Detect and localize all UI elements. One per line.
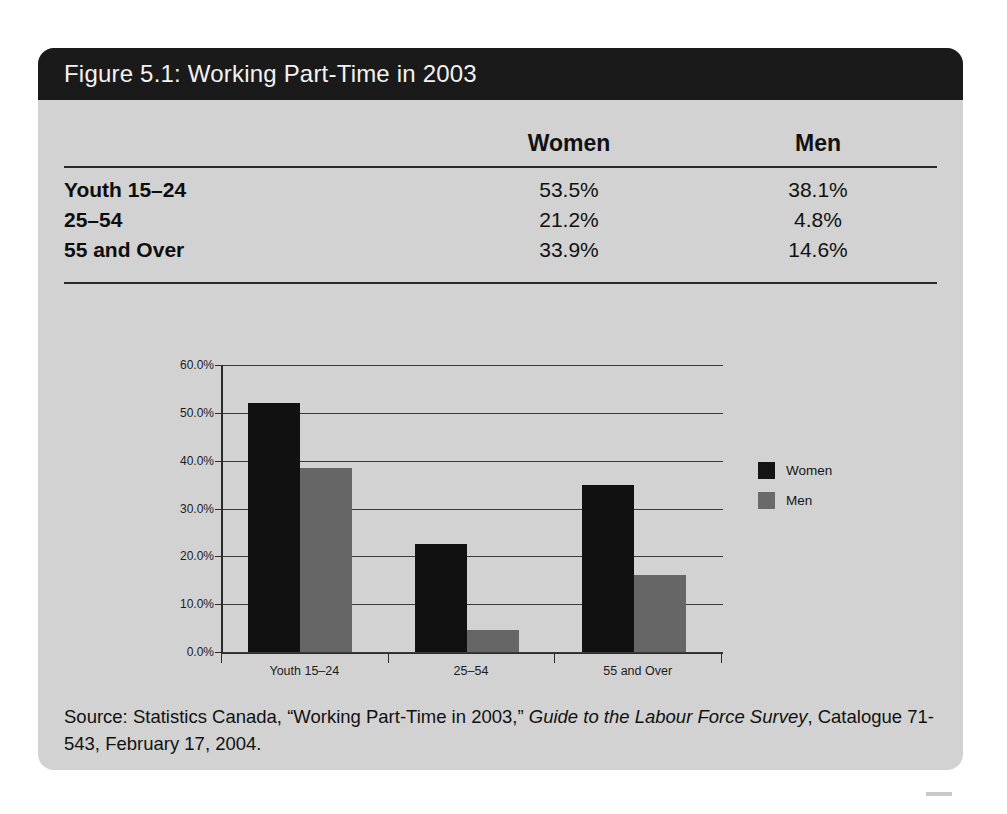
figure-container: Figure 5.1: Working Part-Time in 2003 Wo…: [38, 48, 963, 770]
x-tick-label: 25–54: [454, 664, 489, 678]
source-publication-title: Guide to the Labour Force Survey: [529, 706, 808, 727]
row-men-55over: 14.6%: [699, 238, 937, 262]
legend-swatch-women-icon: [758, 462, 775, 479]
row-women-youth: 53.5%: [439, 178, 699, 202]
table-row: Youth 15–24 53.5% 38.1%: [64, 178, 937, 208]
chart-legend: Women Men: [758, 455, 832, 515]
bar-women-2: [582, 485, 634, 652]
y-tick-mark: [215, 652, 221, 653]
y-tick-label: 10.0%: [180, 597, 214, 611]
x-tick-mark: [388, 654, 389, 663]
legend-swatch-men-icon: [758, 492, 775, 509]
table-body: Youth 15–24 53.5% 38.1% 25–54 21.2% 4.8%…: [64, 168, 937, 272]
row-label-2554: 25–54: [64, 208, 439, 232]
row-label-55over: 55 and Over: [64, 238, 439, 262]
plot-area: [221, 365, 723, 654]
table-row: 25–54 21.2% 4.8%: [64, 208, 937, 238]
y-tick-mark: [215, 413, 221, 414]
y-tick-mark: [215, 509, 221, 510]
table-header-row: Women Men: [64, 120, 937, 162]
bar-chart: 0.0%10.0%20.0%30.0%40.0%50.0%60.0% Youth…: [108, 303, 898, 703]
y-tick-label: 60.0%: [180, 358, 214, 372]
scan-artifact: [926, 792, 952, 796]
bar-women-1: [415, 544, 467, 652]
legend-label-women: Women: [786, 463, 832, 478]
x-tick-label: 55 and Over: [603, 664, 672, 678]
bar-men-2: [634, 575, 686, 652]
figure-title-band: Figure 5.1: Working Part-Time in 2003: [38, 48, 963, 100]
bar-men-1: [467, 630, 519, 652]
source-prefix: Source: Statistics Canada, “Working Part…: [64, 706, 529, 727]
legend-label-men: Men: [786, 493, 812, 508]
y-tick-mark: [215, 365, 221, 366]
source-note: Source: Statistics Canada, “Working Part…: [64, 703, 944, 757]
table-header-women: Women: [439, 120, 699, 157]
row-women-2554: 21.2%: [439, 208, 699, 232]
x-tick-mark: [554, 654, 555, 663]
gridline: [223, 365, 723, 366]
row-label-youth: Youth 15–24: [64, 178, 439, 202]
gridline: [223, 652, 723, 653]
legend-item-men: Men: [758, 485, 832, 515]
row-men-youth: 38.1%: [699, 178, 937, 202]
row-men-2554: 4.8%: [699, 208, 937, 232]
table-header-men: Men: [699, 120, 937, 157]
y-tick-label: 30.0%: [180, 502, 214, 516]
data-table: Women Men Youth 15–24 53.5% 38.1% 25–54 …: [64, 120, 937, 284]
x-tick-label: Youth 15–24: [269, 664, 339, 678]
y-tick-label: 40.0%: [180, 454, 214, 468]
x-axis-labels: Youth 15–2425–5455 and Over: [221, 658, 723, 682]
x-tick-mark: [721, 654, 722, 663]
y-tick-label: 20.0%: [180, 549, 214, 563]
bar-men-0: [300, 468, 352, 652]
table-row: 55 and Over 33.9% 14.6%: [64, 238, 937, 268]
table-rule-bottom: [64, 282, 937, 284]
y-axis-labels: 0.0%10.0%20.0%30.0%40.0%50.0%60.0%: [108, 365, 214, 652]
y-tick-mark: [215, 461, 221, 462]
y-tick-mark: [215, 556, 221, 557]
x-tick-mark: [221, 654, 222, 663]
y-tick-label: 50.0%: [180, 406, 214, 420]
y-tick-mark: [215, 604, 221, 605]
figure-title: Figure 5.1: Working Part-Time in 2003: [64, 60, 477, 88]
legend-item-women: Women: [758, 455, 832, 485]
y-tick-label: 0.0%: [187, 645, 214, 659]
bar-women-0: [248, 403, 300, 652]
row-women-55over: 33.9%: [439, 238, 699, 262]
